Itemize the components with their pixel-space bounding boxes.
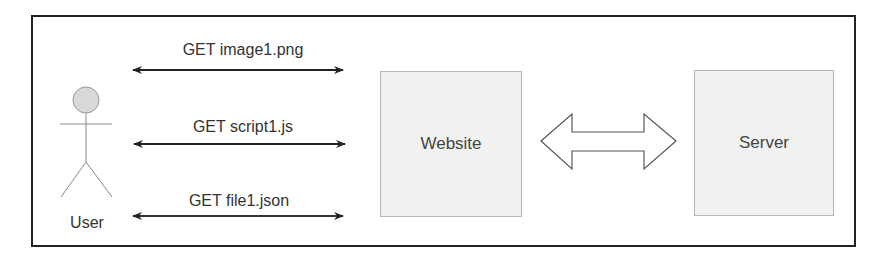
user-actor-icon — [60, 87, 112, 197]
request-label-2: GET script1.js — [193, 118, 293, 136]
request-label-3: GET file1.json — [189, 192, 289, 210]
server-node: Server — [694, 70, 834, 216]
website-node: Website — [380, 71, 522, 217]
server-label: Server — [739, 133, 789, 153]
website-label: Website — [420, 134, 481, 154]
request-label-1: GET image1.png — [183, 41, 304, 59]
actor-label: User — [70, 214, 104, 232]
double-block-arrow-icon — [541, 114, 676, 169]
